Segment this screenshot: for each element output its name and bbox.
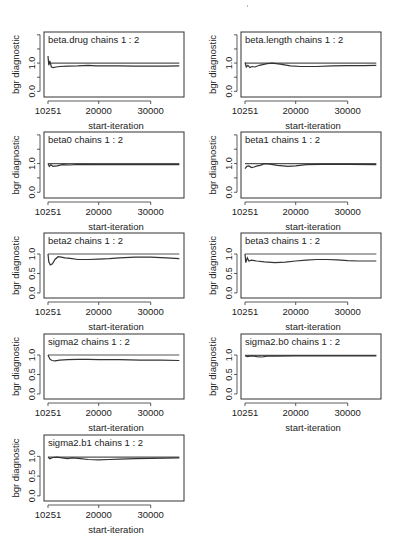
chart-panel: sigma2.b1 chains 1 : 20.00.51.0bgr diagn… [10, 435, 184, 535]
y-tick-label: 1.0 [27, 157, 37, 170]
x-tick-label: 10251 [35, 206, 61, 217]
y-tick-label: 1.0 [27, 248, 37, 261]
bgr-line [245, 164, 376, 169]
panel-title: beta0 chains 1 : 2 [48, 134, 123, 145]
x-axis-label: start-iteration [285, 221, 340, 232]
chart-panel: beta0 chains 1 : 20.01.0bgr diagnostic10… [10, 132, 184, 232]
panel-title: beta.length chains 1 : 2 [245, 34, 343, 45]
y-tick-label: 0.0 [27, 85, 37, 98]
chart-panel: beta3 chains 1 : 20.00.51.0bgr diagnosti… [207, 233, 381, 332]
x-tick-label: 10251 [232, 206, 258, 217]
x-tick-label: 20000 [282, 105, 308, 116]
chart-panel: sigma2.b0 chains 1 : 20.00.51.0bgr diagn… [207, 334, 381, 433]
chart-panel: sigma2 chains 1 : 20.00.51.0bgr diagnost… [10, 334, 184, 433]
chart-panel: beta.length chains 1 : 20.01.0bgr diagno… [207, 32, 381, 131]
y-axis-label: bgr diagnostic [207, 236, 218, 295]
y-tick-label: 1.0 [224, 157, 234, 170]
panel-title: sigma2.b0 chains 1 : 2 [245, 336, 340, 347]
y-tick-label: 0.5 [224, 368, 234, 381]
x-tick-label: 30000 [137, 407, 163, 418]
x-axis-label: start-iteration [88, 120, 143, 131]
x-axis-label: start-iteration [88, 321, 143, 332]
x-axis-label: start-iteration [88, 221, 143, 232]
x-tick-label: 30000 [137, 105, 163, 116]
chart-panel: beta.drug chains 1 : 20.01.0bgr diagnost… [10, 32, 184, 131]
y-tick-label: 1.0 [224, 248, 234, 261]
y-tick-label: 0.0 [224, 388, 234, 401]
speck-mark [247, 5, 248, 7]
x-tick-label: 10251 [35, 306, 61, 317]
chart-grid: beta.drug chains 1 : 20.01.0bgr diagnost… [0, 0, 402, 553]
x-tick-label: 20000 [282, 306, 308, 317]
x-tick-label: 10251 [232, 105, 258, 116]
bgr-line [245, 254, 376, 263]
bgr-diagnostic-figure: beta.drug chains 1 : 20.01.0bgr diagnost… [0, 0, 402, 553]
chart-panel: beta1 chains 1 : 20.01.0bgr diagnostic10… [207, 132, 381, 232]
x-tick-label: 20000 [282, 407, 308, 418]
y-tick-label: 0.0 [27, 287, 37, 300]
x-axis-label: start-iteration [285, 321, 340, 332]
x-tick-label: 20000 [85, 306, 111, 317]
y-axis-label: bgr diagnostic [10, 35, 21, 94]
x-tick-label: 30000 [334, 105, 360, 116]
x-tick-label: 10251 [35, 105, 61, 116]
x-axis-label: start-iteration [285, 422, 340, 433]
x-tick-label: 10251 [35, 509, 61, 520]
y-tick-label: 0.0 [27, 388, 37, 401]
y-tick-label: 0.0 [224, 287, 234, 300]
y-axis-label: bgr diagnostic [207, 337, 218, 396]
bgr-line [48, 355, 179, 361]
chart-panel: beta2 chains 1 : 20.00.51.0bgr diagnosti… [10, 233, 184, 332]
x-axis-label: start-iteration [88, 422, 143, 433]
y-tick-label: 0.0 [224, 186, 234, 199]
x-tick-label: 30000 [137, 509, 163, 520]
panel-title: beta1 chains 1 : 2 [245, 134, 320, 145]
x-tick-label: 30000 [137, 206, 163, 217]
bgr-line [48, 56, 179, 68]
x-axis-label: start-iteration [88, 524, 143, 535]
y-tick-label: 1.0 [224, 349, 234, 362]
y-axis-label: bgr diagnostic [207, 35, 218, 94]
y-tick-label: 0.5 [224, 267, 234, 280]
y-tick-label: 0.0 [224, 85, 234, 98]
x-tick-label: 30000 [137, 306, 163, 317]
panel-title: beta3 chains 1 : 2 [245, 235, 320, 246]
y-tick-label: 0.5 [27, 368, 37, 381]
x-tick-label: 10251 [232, 407, 258, 418]
x-tick-label: 30000 [334, 206, 360, 217]
panel-title: beta.drug chains 1 : 2 [48, 34, 139, 45]
bgr-line [48, 254, 179, 265]
panel-title: beta2 chains 1 : 2 [48, 235, 123, 246]
x-tick-label: 30000 [334, 306, 360, 317]
y-axis-label: bgr diagnostic [10, 438, 21, 497]
bgr-line [245, 356, 376, 357]
x-tick-label: 20000 [85, 105, 111, 116]
y-tick-label: 1.0 [27, 450, 37, 463]
y-tick-label: 0.5 [27, 470, 37, 483]
x-axis-label: start-iteration [285, 120, 340, 131]
y-tick-label: 1.0 [27, 57, 37, 70]
y-tick-label: 0.0 [27, 186, 37, 199]
x-tick-label: 30000 [334, 407, 360, 418]
x-tick-label: 10251 [35, 407, 61, 418]
panel-title: sigma2 chains 1 : 2 [48, 336, 130, 347]
x-tick-label: 20000 [85, 509, 111, 520]
y-axis-label: bgr diagnostic [10, 337, 21, 396]
x-tick-label: 20000 [85, 206, 111, 217]
y-axis-label: bgr diagnostic [207, 135, 218, 194]
y-axis-label: bgr diagnostic [10, 236, 21, 295]
y-tick-label: 0.0 [27, 490, 37, 503]
y-tick-label: 1.0 [27, 349, 37, 362]
panel-title: sigma2.b1 chains 1 : 2 [48, 437, 143, 448]
y-tick-label: 1.0 [224, 57, 234, 70]
x-tick-label: 20000 [85, 407, 111, 418]
y-tick-label: 0.5 [27, 267, 37, 280]
x-tick-label: 20000 [282, 206, 308, 217]
y-axis-label: bgr diagnostic [10, 135, 21, 194]
x-tick-label: 10251 [232, 306, 258, 317]
